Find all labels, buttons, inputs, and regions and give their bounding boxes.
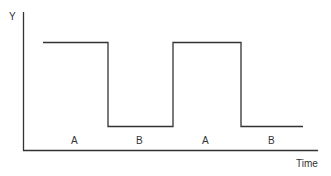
phase-label-b-1: B [136,135,143,146]
phase-label-b-2: B [268,135,275,146]
phase-label-a-2: A [202,135,209,146]
x-axis-label: Time [296,158,318,169]
phase-label-a-1: A [71,135,78,146]
square-wave-chart: Y Time A B A B [0,0,331,176]
square-wave-line [43,43,303,127]
y-axis-label: Y [9,11,16,22]
